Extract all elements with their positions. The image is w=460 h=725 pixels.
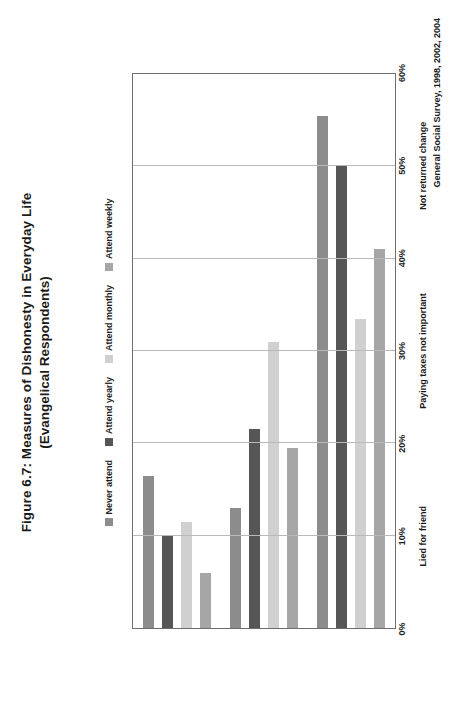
axis-tick-label: 60% xyxy=(397,64,407,82)
legend-item[interactable]: Never attend xyxy=(104,460,114,527)
plot-frame xyxy=(132,73,396,629)
legend-item-label: Never attend xyxy=(104,460,114,515)
legend-item-label: Attend yearly xyxy=(104,377,114,434)
category-label: Paying taxes not important xyxy=(418,293,428,409)
legend-item[interactable]: Attend weekly xyxy=(104,198,114,271)
bar[interactable] xyxy=(200,573,211,628)
legend-item[interactable]: Attend monthly xyxy=(104,285,114,363)
bar-group xyxy=(313,74,389,628)
legend-swatch-icon xyxy=(105,438,113,446)
value-axis: 0%10%20%30%40%50%60% xyxy=(397,73,419,629)
gridline xyxy=(133,258,395,259)
gridline xyxy=(133,350,395,351)
category-label: Lied for friend xyxy=(418,506,428,567)
axis-tick-label: 50% xyxy=(397,157,407,175)
bar[interactable] xyxy=(287,448,298,628)
axis-tick-label: 10% xyxy=(397,527,407,545)
page-subtitle: (Evangelical Respondents) xyxy=(36,0,54,725)
bar[interactable] xyxy=(336,166,347,628)
legend-item-label: Attend weekly xyxy=(104,198,114,259)
bar[interactable] xyxy=(355,319,366,628)
legend-swatch-icon xyxy=(105,263,113,271)
title-block: Figure 6.7: Measures of Dishonesty in Ev… xyxy=(18,0,54,725)
bar[interactable] xyxy=(317,116,328,628)
gridline xyxy=(133,165,395,166)
gridline xyxy=(133,535,395,536)
chart-legend: Never attendAttend yearlyAttend monthlyA… xyxy=(104,198,114,526)
legend-swatch-icon xyxy=(105,519,113,527)
bar[interactable] xyxy=(181,522,192,628)
bar-groups xyxy=(133,74,395,628)
axis-tick-label: 40% xyxy=(397,249,407,267)
plot-area xyxy=(132,73,396,629)
bar[interactable] xyxy=(143,476,154,628)
legend-swatch-icon xyxy=(105,355,113,363)
gridline xyxy=(133,442,395,443)
chart-figure: Figure 6.7: Measures of Dishonesty in Ev… xyxy=(0,0,460,725)
bar-group xyxy=(226,74,302,628)
bar-group xyxy=(139,74,215,628)
rotated-figure-canvas: Figure 6.7: Measures of Dishonesty in Ev… xyxy=(0,0,460,725)
page-title: Figure 6.7: Measures of Dishonesty in Ev… xyxy=(18,0,36,725)
axis-tick-label: 0% xyxy=(397,622,407,635)
bar[interactable] xyxy=(268,342,279,628)
axis-tick-label: 30% xyxy=(397,342,407,360)
legend-item-label: Attend monthly xyxy=(104,285,114,351)
axis-tick-label: 20% xyxy=(397,435,407,453)
bar[interactable] xyxy=(162,536,173,628)
bar[interactable] xyxy=(230,508,241,628)
source-note: General Social Survey, 1998, 2002, 2004 xyxy=(432,18,442,187)
bar[interactable] xyxy=(374,249,385,628)
legend-item[interactable]: Attend yearly xyxy=(104,377,114,446)
bar[interactable] xyxy=(249,429,260,628)
category-label: Not returned change xyxy=(418,122,428,210)
